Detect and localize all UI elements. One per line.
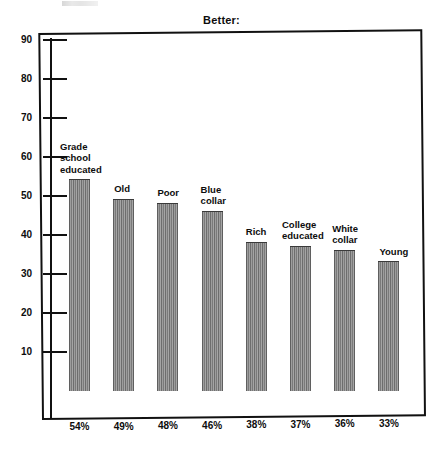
- bar: [290, 246, 311, 391]
- bar: [157, 203, 178, 391]
- bar-category-label: White collar: [332, 223, 358, 246]
- bar-value-label: 38%: [237, 419, 276, 430]
- bar-value-label: 48%: [148, 420, 187, 431]
- bar: [202, 211, 223, 391]
- bar-category-label: Grade school educated: [60, 141, 102, 176]
- plot-area: Grade school educated54%Old49%Poor48%Blu…: [0, 0, 443, 464]
- bar-value-label: 46%: [193, 420, 232, 431]
- bar-category-label: Poor: [157, 187, 179, 199]
- bar: [113, 199, 134, 391]
- bar-category-label: Rich: [246, 226, 267, 238]
- bar-value-label: 33%: [369, 418, 408, 429]
- bar: [334, 250, 355, 391]
- bar-value-label: 49%: [104, 421, 143, 432]
- bar: [246, 242, 267, 391]
- bar-category-label: College educated: [282, 219, 324, 242]
- bar: [69, 179, 90, 391]
- bar-category-label: Young: [379, 246, 408, 258]
- bar-value-label: 36%: [325, 418, 364, 429]
- bar-category-label: Old: [114, 183, 130, 195]
- bar-category-label: Blue collar: [201, 184, 226, 207]
- bar-value-label: 37%: [281, 419, 320, 430]
- scanned-chart-page: Better: 908070605040302010 Grade school …: [0, 0, 443, 464]
- bar: [378, 261, 399, 391]
- bar-value-label: 54%: [60, 421, 99, 432]
